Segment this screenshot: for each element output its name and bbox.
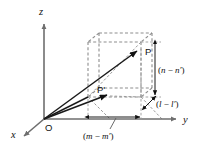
- box-edge-top-right: [141, 33, 152, 42]
- dimension-label-l: (l − l′): [156, 99, 179, 109]
- box-edge-bottom-right: [141, 88, 152, 97]
- point-label-P: P: [145, 46, 151, 57]
- dimension-m: [88, 99, 141, 129]
- vector-diagram-svg: z y x O P P' (n − n′) (l − l′) (m − m′): [0, 0, 198, 150]
- axes-group: [24, 24, 176, 136]
- figure-container: z y x O P P' (n − n′) (l − l′) (m − m′): [0, 0, 198, 150]
- vector-O-to-P: [44, 51, 137, 119]
- point-label-P-prime: P': [97, 84, 105, 95]
- point-label-origin: O: [45, 122, 52, 133]
- axis-label-x: x: [10, 129, 16, 140]
- axis-label-z: z: [38, 6, 43, 17]
- dimension-l: [145, 96, 156, 107]
- x-axis-line: [24, 119, 44, 136]
- helper-origin-diagonal: [88, 42, 141, 97]
- vector-Pprime-to-P: [44, 97, 88, 119]
- axis-label-y: y: [182, 114, 188, 125]
- dimension-label-m: (m − m′): [83, 131, 114, 141]
- box-edge-top-left: [88, 33, 99, 42]
- dimension-label-n: (n − n′): [158, 65, 185, 75]
- dim-l-arrow-line: [145, 96, 156, 107]
- vectors-group: [44, 51, 137, 119]
